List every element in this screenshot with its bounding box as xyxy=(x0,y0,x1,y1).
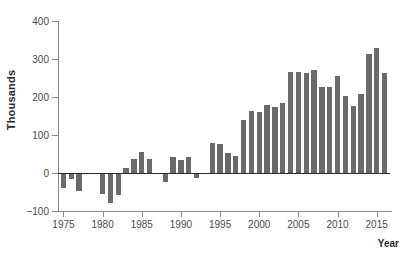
y-axis-tick xyxy=(52,97,58,98)
y-axis-tick xyxy=(52,135,58,136)
bar xyxy=(358,94,363,173)
bar xyxy=(311,70,316,173)
y-axis-tick-label: 400 xyxy=(9,16,49,27)
zero-baseline xyxy=(58,173,390,174)
x-axis-tick-label: 1975 xyxy=(43,219,83,230)
bar xyxy=(335,76,340,173)
x-axis-tick-label: 1985 xyxy=(122,219,162,230)
bar xyxy=(374,48,379,173)
bar xyxy=(382,73,387,173)
bar xyxy=(186,157,191,173)
bar xyxy=(264,105,269,173)
x-axis-line xyxy=(58,211,392,212)
x-axis-tick-label: 1990 xyxy=(161,219,201,230)
bar xyxy=(178,160,183,173)
y-axis-tick-label: 300 xyxy=(9,54,49,65)
x-axis-tick-label: 2005 xyxy=(278,219,318,230)
bar xyxy=(163,173,168,182)
bar xyxy=(241,120,246,173)
bar xyxy=(61,173,66,188)
bar xyxy=(139,152,144,173)
bar xyxy=(108,173,113,203)
x-axis-tick xyxy=(142,212,143,217)
y-axis-tick xyxy=(52,211,58,212)
bar-chart-figure: Thousands Year 4003002001000−10019751980… xyxy=(0,0,407,260)
bar xyxy=(351,106,356,173)
bar xyxy=(319,87,324,173)
y-axis-tick xyxy=(52,173,58,174)
y-axis-tick xyxy=(52,59,58,60)
bar xyxy=(217,144,222,173)
bar xyxy=(249,111,254,173)
bar xyxy=(366,54,371,173)
bar xyxy=(225,153,230,173)
bar xyxy=(343,96,348,173)
x-axis-tick-label: 2010 xyxy=(318,219,358,230)
x-axis-tick-label: 2000 xyxy=(239,219,279,230)
bar xyxy=(210,143,215,173)
y-axis-tick-label: 0 xyxy=(9,168,49,179)
x-axis-tick xyxy=(103,212,104,217)
x-axis-tick xyxy=(63,212,64,217)
x-axis-tick-label: 2015 xyxy=(357,219,397,230)
y-axis-tick xyxy=(52,21,58,22)
x-axis-tick-label: 1995 xyxy=(200,219,240,230)
bar xyxy=(296,72,301,173)
x-axis-tick xyxy=(181,212,182,217)
bar xyxy=(170,157,175,173)
y-axis-tick-label: 200 xyxy=(9,92,49,103)
bar xyxy=(233,156,238,173)
x-axis-tick xyxy=(298,212,299,217)
bar xyxy=(147,159,152,173)
x-axis-tick xyxy=(259,212,260,217)
bar xyxy=(288,72,293,173)
y-axis-tick-label: −100 xyxy=(9,206,49,217)
bar xyxy=(272,107,277,173)
bar xyxy=(116,173,121,195)
x-axis-tick xyxy=(338,212,339,217)
bar xyxy=(76,173,81,191)
plot-area xyxy=(58,21,390,211)
bar xyxy=(304,73,309,173)
bar xyxy=(280,103,285,173)
bar xyxy=(131,159,136,173)
x-axis-tick xyxy=(220,212,221,217)
bar xyxy=(257,112,262,173)
x-axis-title: Year xyxy=(378,238,399,249)
x-axis-tick-label: 1980 xyxy=(83,219,123,230)
y-axis-tick-label: 100 xyxy=(9,130,49,141)
bar xyxy=(327,87,332,173)
bar xyxy=(100,173,105,194)
x-axis-tick xyxy=(377,212,378,217)
